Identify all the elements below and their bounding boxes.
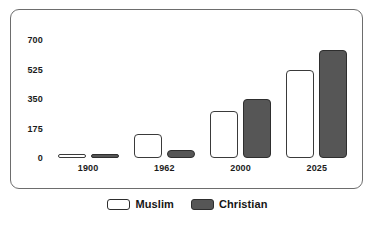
bar-muslim-1900[interactable]: [58, 154, 86, 158]
legend-entry-christian[interactable]: Christian: [191, 198, 268, 210]
bar-chart-figure: 0175350525700 1900196220002025 MuslimChr…: [0, 0, 375, 226]
x-axis-tick-label: 1962: [154, 163, 175, 173]
bar-christian-1962[interactable]: [167, 150, 195, 158]
y-axis-tick-label: 0: [38, 153, 43, 163]
bar-christian-2025[interactable]: [319, 50, 347, 158]
legend-entry-muslim[interactable]: Muslim: [107, 198, 174, 210]
chart-legend: MuslimChristian: [0, 198, 375, 210]
bar-group-2025: 2025: [281, 40, 353, 158]
bars-layer: 1900196220002025: [50, 40, 355, 158]
white-swatch-icon: [107, 199, 130, 210]
bar-group-1900: 1900: [52, 40, 124, 158]
y-axis-tick-label: 175: [27, 124, 43, 134]
bar-muslim-2025[interactable]: [286, 70, 314, 159]
y-axis-tick-label: 700: [27, 35, 43, 45]
legend-label: Christian: [219, 198, 268, 210]
x-axis-tick-label: 2000: [230, 163, 251, 173]
legend-label: Muslim: [135, 198, 174, 210]
plot-area: 0175350525700 1900196220002025: [50, 40, 355, 158]
y-axis-tick-label: 525: [27, 65, 43, 75]
bar-group-1962: 1962: [128, 40, 200, 158]
bar-group-2000: 2000: [205, 40, 277, 158]
bar-christian-2000[interactable]: [243, 99, 271, 158]
bar-christian-1900[interactable]: [91, 154, 119, 158]
bar-muslim-1962[interactable]: [134, 134, 162, 158]
dark-swatch-icon: [191, 199, 214, 210]
x-axis-tick-label: 1900: [78, 163, 99, 173]
y-axis-tick-label: 350: [27, 94, 43, 104]
bar-muslim-2000[interactable]: [210, 111, 238, 158]
x-axis-tick-label: 2025: [306, 163, 327, 173]
